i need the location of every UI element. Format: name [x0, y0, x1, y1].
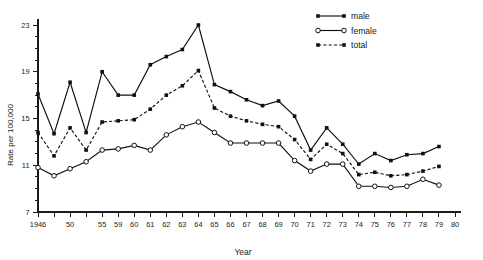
- data-point-male: [245, 98, 249, 102]
- x-axis-tick-label: 73: [339, 220, 347, 229]
- data-point-total: [213, 106, 217, 110]
- axis-titles-group: Rate per 100,000 Year: [6, 104, 252, 257]
- x-axis-tick-label: 63: [178, 220, 186, 229]
- data-point-male: [437, 145, 441, 149]
- data-point-female: [437, 183, 442, 188]
- x-axis-tick-label: 59: [114, 220, 122, 229]
- x-axis-tick-label: 62: [162, 220, 170, 229]
- data-point-female: [100, 148, 105, 153]
- data-point-male: [293, 114, 297, 118]
- data-point-female: [36, 165, 41, 170]
- y-axis-title: Rate per 100,000: [6, 104, 15, 166]
- data-point-male: [373, 152, 377, 156]
- legend-label-total: total: [351, 40, 367, 50]
- legend-label-female: female: [351, 26, 377, 36]
- legend-marker-male: [316, 14, 320, 18]
- data-point-female: [340, 162, 345, 167]
- x-axis-tick-label: 55: [98, 220, 106, 229]
- x-axis-tick-label: 66: [226, 220, 234, 229]
- data-point-male: [405, 153, 409, 157]
- data-point-total: [229, 114, 233, 118]
- y-axis-tick-label: 11: [22, 161, 30, 170]
- data-point-total: [148, 107, 152, 111]
- x-axis-tick-label: 75: [371, 220, 379, 229]
- data-point-female: [228, 141, 233, 146]
- data-point-female: [68, 166, 73, 171]
- legend-marker-male: [342, 14, 346, 18]
- data-point-female: [116, 147, 121, 152]
- data-point-total: [357, 173, 361, 177]
- x-axis-tick-label: 74: [355, 220, 363, 229]
- data-point-male: [357, 162, 361, 166]
- x-axis-tick-label: 78: [419, 220, 427, 229]
- data-point-total: [181, 84, 185, 88]
- data-point-male: [148, 63, 152, 67]
- x-axis-tick-label: 76: [387, 220, 395, 229]
- x-axis-tick-label: 50: [66, 220, 74, 229]
- data-point-total: [293, 138, 297, 142]
- y-axis-tick-label: 23: [21, 21, 29, 30]
- legend-group: malefemaletotal: [316, 11, 377, 50]
- data-point-male: [116, 93, 120, 97]
- y-axis-tick-label: 19: [21, 67, 29, 76]
- x-axis-tick-label: 68: [258, 220, 266, 229]
- x-axis-tick-label: 79: [435, 220, 443, 229]
- x-axis-tick-label: 65: [210, 220, 218, 229]
- data-point-male: [181, 48, 185, 52]
- data-point-male: [309, 148, 313, 152]
- x-axis-tick-label: 60: [130, 220, 138, 229]
- data-point-male: [165, 55, 169, 59]
- x-axis-tick-label: 1946: [30, 220, 46, 229]
- data-point-total: [437, 165, 441, 169]
- line-chart: 7111519231946505559606162636465666768697…: [0, 0, 483, 260]
- data-point-female: [132, 143, 137, 148]
- x-axis-tick-label: 72: [323, 220, 331, 229]
- data-point-total: [309, 158, 313, 162]
- series-group: [36, 23, 442, 190]
- data-point-total: [341, 152, 345, 156]
- data-point-male: [36, 92, 40, 96]
- data-point-total: [197, 69, 201, 73]
- data-point-female: [164, 133, 169, 138]
- data-point-male: [421, 152, 425, 156]
- data-point-total: [165, 93, 169, 97]
- data-point-male: [52, 132, 56, 136]
- data-point-total: [405, 173, 409, 177]
- data-point-female: [421, 177, 426, 182]
- data-point-total: [100, 120, 104, 124]
- data-point-male: [132, 93, 136, 97]
- data-point-total: [261, 123, 265, 127]
- chart-figure: 7111519231946505559606162636465666768697…: [0, 0, 483, 260]
- data-point-total: [68, 126, 72, 130]
- data-point-total: [325, 142, 329, 146]
- data-point-male: [261, 104, 265, 108]
- legend-label-male: male: [351, 11, 370, 21]
- data-point-total: [116, 119, 120, 123]
- data-point-total: [389, 174, 393, 178]
- data-point-total: [421, 169, 425, 173]
- data-point-total: [132, 118, 136, 122]
- data-point-female: [373, 184, 378, 189]
- data-point-male: [389, 159, 393, 163]
- data-point-female: [389, 185, 394, 190]
- x-axis-tick-label: 80: [451, 220, 459, 229]
- x-axis-tick-label: 71: [307, 220, 315, 229]
- x-axis-tick-label: 70: [290, 220, 298, 229]
- data-point-female: [405, 184, 410, 189]
- data-point-female: [84, 159, 89, 164]
- axes-group: 7111519231946505559606162636465666768697…: [21, 19, 461, 229]
- data-point-male: [197, 23, 201, 27]
- x-axis-tick-label: 69: [274, 220, 282, 229]
- data-point-female: [196, 120, 201, 125]
- data-point-male: [84, 131, 88, 135]
- data-point-total: [277, 125, 281, 129]
- data-point-female: [212, 130, 217, 135]
- data-point-female: [148, 148, 153, 153]
- x-axis-tick-label: 64: [194, 220, 202, 229]
- data-point-total: [52, 154, 56, 158]
- data-point-female: [356, 184, 361, 189]
- data-point-male: [325, 126, 329, 130]
- data-point-total: [245, 119, 249, 123]
- data-point-male: [213, 83, 217, 87]
- data-point-female: [276, 141, 281, 146]
